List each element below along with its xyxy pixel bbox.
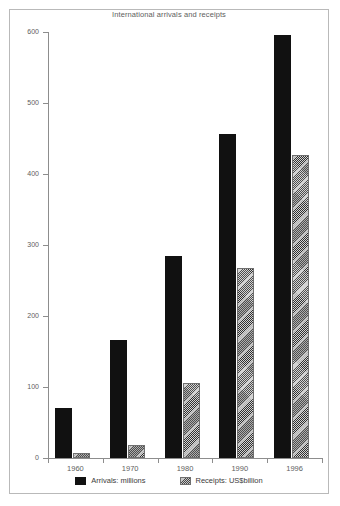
bar-receipts-1970 xyxy=(128,445,145,458)
x-tick-label-1996: 1996 xyxy=(265,464,325,473)
y-tick-label-0: 0 xyxy=(0,454,39,461)
x-tick-3 xyxy=(212,458,213,463)
y-tick-label-400: 400 xyxy=(0,170,39,177)
bar-receipts-1960 xyxy=(73,453,90,458)
bar-receipts-1996 xyxy=(292,155,309,458)
x-tick-1 xyxy=(103,458,104,463)
x-tick-label-1970: 1970 xyxy=(100,464,160,473)
y-tick-500 xyxy=(43,103,49,104)
y-tick-label-500: 500 xyxy=(0,99,39,106)
y-tick-400 xyxy=(43,174,49,175)
legend-item-receipts: Receipts: US$billion xyxy=(180,476,263,485)
y-tick-label-300: 300 xyxy=(0,241,39,248)
legend-swatch-receipts-icon xyxy=(180,477,191,485)
x-tick-label-1980: 1980 xyxy=(155,464,215,473)
x-tick-2 xyxy=(158,458,159,463)
chart-legend: Arrivals: millions Receipts: US$billion xyxy=(9,476,329,485)
plot-area: 0100200300400500600 19601970198019901996 xyxy=(0,0,340,506)
y-tick-200 xyxy=(43,316,49,317)
bar-arrivals-1996 xyxy=(274,35,291,458)
bar-arrivals-1990 xyxy=(219,134,236,458)
legend-item-arrivals: Arrivals: millions xyxy=(75,476,145,485)
x-tick-4 xyxy=(267,458,268,463)
y-tick-600 xyxy=(43,32,49,33)
bar-receipts-1980 xyxy=(183,383,200,458)
y-tick-100 xyxy=(43,387,49,388)
y-tick-label-100: 100 xyxy=(0,383,39,390)
bar-arrivals-1980 xyxy=(165,256,182,458)
x-tick-label-1990: 1990 xyxy=(210,464,270,473)
x-axis-line xyxy=(48,458,322,459)
x-tick-label-1960: 1960 xyxy=(45,464,105,473)
y-tick-label-600: 600 xyxy=(0,28,39,35)
legend-label-arrivals: Arrivals: millions xyxy=(91,476,145,485)
bar-arrivals-1960 xyxy=(55,408,72,458)
x-tick-0 xyxy=(48,458,49,463)
legend-swatch-arrivals-icon xyxy=(75,477,86,485)
chart-figure: International arrivals and receipts 0100… xyxy=(0,0,340,506)
bar-receipts-1990 xyxy=(237,268,254,458)
y-tick-label-200: 200 xyxy=(0,312,39,319)
y-tick-300 xyxy=(43,245,49,246)
x-tick-5 xyxy=(322,458,323,463)
legend-label-receipts: Receipts: US$billion xyxy=(196,476,263,485)
bar-arrivals-1970 xyxy=(110,340,127,458)
